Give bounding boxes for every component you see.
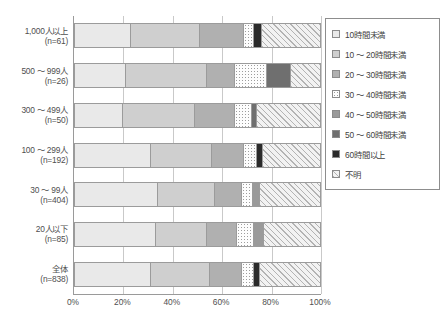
bar-series-container — [74, 16, 321, 294]
legend-swatch-icon — [332, 170, 340, 178]
bar-segment — [123, 103, 195, 128]
legend-swatch-icon — [332, 150, 340, 158]
bar-segment — [262, 23, 321, 48]
bar-row — [74, 262, 321, 287]
bar-row — [74, 23, 321, 48]
bar-segment — [74, 262, 151, 287]
bar-segment — [74, 182, 158, 207]
x-axis-tick: 0% — [67, 297, 79, 308]
legend-swatch-icon — [332, 110, 340, 118]
plot-area — [73, 16, 321, 294]
legend-label: 40 ～ 50時間未満 — [345, 108, 406, 120]
bar-segment — [151, 143, 213, 168]
y-axis-label-line2: (n=61) — [0, 36, 68, 46]
bar-segment — [244, 23, 254, 48]
bar-row — [74, 63, 321, 88]
y-axis-label-line1: 全体 — [52, 264, 68, 274]
chart-legend: 10時間未満10 ～ 20時間未満20 ～ 30時間未満30 ～ 40時間未満4… — [325, 18, 440, 190]
y-axis-label: 全体(n=838) — [0, 264, 68, 284]
bar-segment — [242, 262, 254, 287]
x-axis-tick: 80% — [262, 297, 279, 308]
legend-label: 50 ～ 60時間未満 — [345, 128, 406, 140]
y-axis-label-line2: (n=192) — [0, 155, 68, 165]
bar-segment — [74, 143, 151, 168]
bar-segment — [235, 63, 267, 88]
y-axis-label-line1: 300 ～ 499人 — [21, 105, 68, 115]
bar-segment — [131, 23, 200, 48]
y-axis-label: 1,000人以上(n=61) — [0, 26, 68, 46]
x-axis-line — [73, 294, 321, 295]
bar-segment — [156, 222, 208, 247]
bar-segment — [260, 262, 321, 287]
bar-segment — [210, 262, 242, 287]
legend-label: 30 ～ 40時間未満 — [345, 88, 406, 100]
legend-item[interactable]: 不明 — [326, 164, 439, 184]
bar-segment — [74, 103, 123, 128]
y-axis-label: 300 ～ 499人(n=50) — [0, 105, 68, 125]
legend-item[interactable]: 10時間未満 — [326, 24, 439, 44]
x-axis-tick: 40% — [163, 297, 180, 308]
bar-segment — [200, 23, 244, 48]
legend-label: 10 ～ 20時間未満 — [345, 48, 406, 60]
bar-segment — [74, 63, 126, 88]
bar-segment — [242, 182, 253, 207]
legend-swatch-icon — [332, 50, 340, 58]
bar-segment — [244, 143, 256, 168]
stacked-bar-chart: 1,000人以上(n=61)500 ～ 999人(n=26)300 ～ 499人… — [0, 0, 443, 331]
legend-swatch-icon — [332, 70, 340, 78]
y-axis-label: 30 ～ 99人(n=404) — [0, 185, 68, 205]
legend-swatch-icon — [332, 130, 340, 138]
bar-row — [74, 143, 321, 168]
y-axis-label: 20人以下(n=85) — [0, 224, 68, 244]
bar-segment — [74, 23, 131, 48]
legend-label: 60時間以上 — [345, 148, 385, 160]
bar-segment — [267, 63, 292, 88]
bar-segment — [158, 182, 215, 207]
x-axis-tick: 100% — [309, 297, 330, 308]
bar-segment — [126, 63, 208, 88]
bar-segment — [254, 222, 264, 247]
bar-segment — [215, 182, 242, 207]
y-axis-label: 100 ～ 299人(n=192) — [0, 145, 68, 165]
legend-swatch-icon — [332, 90, 340, 98]
y-axis-label-line2: (n=85) — [0, 234, 68, 244]
bar-segment — [207, 222, 237, 247]
y-axis-label-line2: (n=26) — [0, 76, 68, 86]
bar-row — [74, 182, 321, 207]
bar-segment — [263, 143, 321, 168]
bar-segment — [212, 143, 244, 168]
legend-swatch-icon — [332, 30, 340, 38]
bar-segment — [254, 23, 261, 48]
legend-item[interactable]: 60時間以上 — [326, 144, 439, 164]
bar-row — [74, 103, 321, 128]
legend-item[interactable]: 50 ～ 60時間未満 — [326, 124, 439, 144]
y-axis-label-line1: 500 ～ 999人 — [21, 66, 68, 76]
bar-segment — [151, 262, 210, 287]
y-axis-label-line2: (n=838) — [0, 274, 68, 284]
legend-item[interactable]: 20 ～ 30時間未満 — [326, 64, 439, 84]
bar-segment — [264, 222, 321, 247]
y-axis-label-line1: 20人以下 — [36, 224, 68, 234]
bar-segment — [260, 182, 321, 207]
bar-row — [74, 222, 321, 247]
y-axis-label-line1: 1,000人以上 — [25, 26, 68, 36]
y-axis-label-line1: 100 ～ 299人 — [21, 145, 68, 155]
bar-segment — [235, 103, 252, 128]
x-axis-tick: 60% — [213, 297, 230, 308]
legend-label: 10時間未満 — [345, 28, 385, 40]
bar-segment — [253, 182, 260, 207]
x-axis-tick: 20% — [114, 297, 131, 308]
bar-segment — [195, 103, 235, 128]
x-axis-tick-labels: 0%20%40%60%80%100% — [0, 297, 443, 311]
gridline — [321, 16, 322, 294]
legend-label: 20 ～ 30時間未満 — [345, 68, 406, 80]
legend-item[interactable]: 30 ～ 40時間未満 — [326, 84, 439, 104]
legend-item[interactable]: 10 ～ 20時間未満 — [326, 44, 439, 64]
bar-segment — [237, 222, 254, 247]
legend-item[interactable]: 40 ～ 50時間未満 — [326, 104, 439, 124]
y-axis-label-line1: 30 ～ 99人 — [30, 185, 68, 195]
y-axis-label: 500 ～ 999人(n=26) — [0, 66, 68, 86]
bar-segment — [257, 103, 321, 128]
legend-label: 不明 — [345, 168, 361, 180]
y-axis-label-line2: (n=404) — [0, 195, 68, 205]
